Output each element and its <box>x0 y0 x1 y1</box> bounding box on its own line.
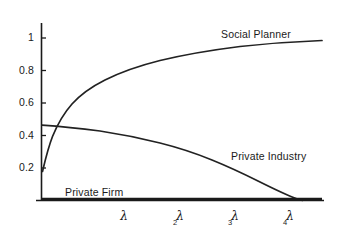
lambda-symbol-2: λ <box>176 209 184 223</box>
series-label-private-firm: Private Firm <box>65 186 123 198</box>
series-label-private-industry: Private Industry <box>231 150 306 162</box>
x-axis-tick-label-2lambda: 2λ <box>164 210 192 227</box>
y-axis-tick-label-0-8: 0.8 <box>8 65 34 76</box>
x-tick-coefficient-3: 3 <box>228 218 232 227</box>
x-tick-coefficient-4: 4 <box>283 218 287 227</box>
y-axis-tick-label-0-2: 0.2 <box>8 162 34 173</box>
x-axis-tick-label-3lambda: 3λ <box>219 210 247 227</box>
chart-plot-area <box>0 0 347 236</box>
lambda-symbol-3: λ <box>231 209 239 223</box>
x-axis-tick-label-4lambda: 4λ <box>274 210 302 227</box>
x-axis-tick-label-lambda: λ <box>110 210 138 227</box>
y-axis-tick-label-1: 1 <box>8 32 34 43</box>
x-tick-coefficient-2: 2 <box>173 218 177 227</box>
chart-figure: 1 0.8 0.6 0.4 0.2 λ 2λ 3λ 4λ Social Plan… <box>0 0 347 236</box>
y-axis-tick-label-0-4: 0.4 <box>8 130 34 141</box>
y-axis-tick-label-0-6: 0.6 <box>8 97 34 108</box>
series-label-social-planner: Social Planner <box>221 28 291 40</box>
lambda-symbol-1: λ <box>120 209 128 223</box>
lambda-symbol-4: λ <box>286 209 294 223</box>
